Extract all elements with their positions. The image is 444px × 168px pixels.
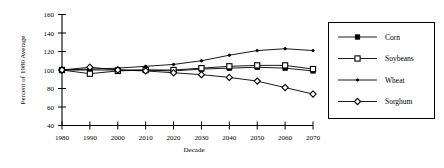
data-point-sorghum-2050 [254,78,260,84]
legend-item-wheat[interactable]: Wheat [338,76,405,85]
series-line-wheat [62,49,313,70]
x-tick-label: 2000 [111,134,126,142]
y-axis-title: Percent of 1980 Average [19,36,27,105]
data-point-wheat-2060 [284,48,286,50]
data-point-sorghum-2060 [282,84,288,90]
data-point-wheat-2070 [312,49,314,51]
legend-marker-soybeans [355,56,360,61]
line-chart-svg: 406080100120140160 Percent of 1980 Avera… [0,0,444,168]
legend-marker-corn [355,35,359,39]
x-axis-tick-labels: 1980199020002010202020302040205020602070 [55,134,321,142]
data-point-wheat-2030 [200,60,202,62]
legend-items: CornSoybeansWheatSorghum [338,33,414,107]
y-axis-tick-labels: 406080100120140160 [44,11,55,130]
data-point-wheat-2050 [256,49,258,51]
data-point-sorghum-2070 [310,91,316,97]
series-line-soybeans [62,65,313,73]
y-tick-label: 40 [47,122,55,130]
data-point-soybeans-1990 [87,71,92,76]
x-tick-label: 2060 [278,134,293,142]
y-tick-label: 80 [47,85,55,93]
data-point-soybeans-2040 [227,64,232,69]
series-line-sorghum [62,67,313,94]
legend-item-corn[interactable]: Corn [338,33,400,42]
data-point-sorghum-2030 [198,72,204,78]
x-axis-title: Decade [184,146,205,154]
legend-item-soybeans[interactable]: Soybeans [338,54,414,63]
series-soybeans [59,63,315,77]
data-point-sorghum-2040 [226,74,232,80]
legend-marker-sorghum [354,98,360,104]
legend-label-wheat: Wheat [385,76,405,85]
x-axis: 1980199020002010202020302040205020602070… [55,122,321,155]
data-point-soybeans-2030 [199,66,204,71]
data-point-wheat-2020 [172,63,174,65]
legend-item-sorghum[interactable]: Sorghum [338,97,413,106]
legend-marker-wheat [356,79,358,81]
y-tick-label: 100 [44,67,55,75]
x-tick-label: 1990 [83,134,98,142]
x-tick-label: 2010 [139,134,154,142]
legend-label-sorghum: Sorghum [385,97,413,106]
x-tick-label: 1980 [55,134,70,142]
x-tick-label: 2040 [222,134,237,142]
y-tick-label: 140 [44,30,55,38]
chart-figure: 406080100120140160 Percent of 1980 Avera… [0,0,444,168]
plot-series-group [59,48,316,98]
legend: CornSoybeansWheatSorghum [329,23,435,119]
y-tick-label: 160 [44,11,55,19]
legend-label-soybeans: Soybeans [385,54,414,63]
y-tick-label: 120 [44,48,55,56]
data-point-soybeans-2060 [283,63,288,68]
legend-label-corn: Corn [385,33,400,42]
data-point-wheat-2040 [228,54,230,56]
x-tick-label: 2020 [167,134,182,142]
x-tick-label: 2030 [194,134,209,142]
y-tick-label: 60 [47,104,55,112]
x-tick-label: 2070 [306,134,321,142]
x-tick-label: 2050 [250,134,265,142]
data-point-soybeans-2070 [310,66,315,71]
data-point-soybeans-2050 [255,63,260,68]
